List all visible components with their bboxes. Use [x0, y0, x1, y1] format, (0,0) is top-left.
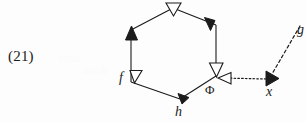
arrowhead-upperright-filled [205, 18, 216, 31]
arrowhead-bottom-filled [178, 94, 189, 105]
arrowhead-phi-hollow-left [218, 73, 231, 85]
hexagon-diagram [0, 0, 306, 122]
edge-g-to-x [272, 26, 300, 74]
arrowhead-f-hollow [130, 71, 142, 84]
node-label-g: g [297, 22, 304, 38]
edge-bottom-lowerleft [131, 82, 180, 99]
diagram-page: (21) scan mark [0, 0, 306, 122]
node-label-phi: Φ [205, 82, 215, 98]
node-label-f: f [119, 70, 123, 86]
node-label-x: x [266, 84, 272, 100]
arrowhead-phi-hollow-down [210, 63, 224, 77]
edge-upperleft-top [131, 8, 173, 30]
node-label-h: h [175, 104, 182, 120]
arrowhead-top-hollow [166, 3, 181, 16]
